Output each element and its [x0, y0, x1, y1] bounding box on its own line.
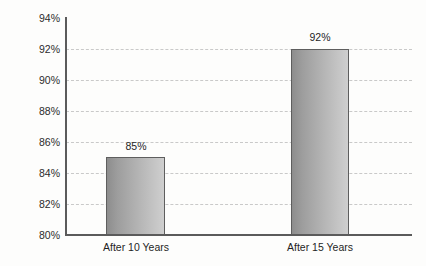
gridline-90	[66, 80, 412, 81]
bar-chart: 94% 92% 90% 88% 86% 84% 82% 80% 85% 92% …	[0, 0, 426, 266]
gridline-86	[66, 142, 412, 143]
x-category-label-after-10-years: After 10 Years	[103, 241, 169, 253]
y-tick-label-90: 90%	[14, 74, 60, 86]
y-axis-line	[65, 17, 67, 236]
y-tick-label-84: 84%	[14, 167, 60, 179]
x-axis-line	[65, 234, 412, 236]
y-tick-label-86: 86%	[14, 136, 60, 148]
bar-value-label-after-10-years: 85%	[125, 140, 146, 152]
y-tick-label-82: 82%	[14, 198, 60, 210]
bar-value-label-after-15-years: 92%	[309, 31, 330, 43]
bar-after-15-years	[291, 49, 349, 235]
y-tick-label-80: 80%	[14, 229, 60, 241]
x-category-label-after-15-years: After 15 Years	[287, 241, 353, 253]
y-tick-label-94: 94%	[14, 12, 60, 24]
gridline-88	[66, 111, 412, 112]
y-tick-label-88: 88%	[14, 105, 60, 117]
plot-area	[66, 18, 412, 235]
y-tick-label-92: 92%	[14, 43, 60, 55]
gridline-92	[66, 49, 412, 50]
bar-after-10-years	[106, 157, 165, 235]
